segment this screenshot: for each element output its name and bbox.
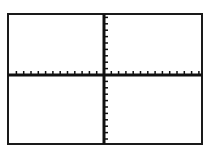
coordinate-plane <box>0 0 208 151</box>
